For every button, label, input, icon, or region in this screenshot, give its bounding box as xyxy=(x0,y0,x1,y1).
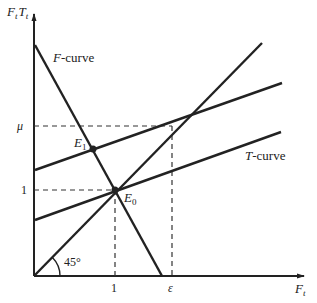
t-curve-line xyxy=(35,132,281,220)
f-curve-line xyxy=(35,45,162,276)
tick-x-one: 1 xyxy=(111,281,117,295)
tick-x-epsilon: ε xyxy=(168,281,173,295)
point-e0 xyxy=(112,187,119,194)
point-e1 xyxy=(90,146,97,153)
t-curve-label: T-curve xyxy=(245,148,286,163)
tick-y-one: 1 xyxy=(21,183,27,197)
angle-arc xyxy=(52,258,60,276)
f-curve-label: F-curve xyxy=(52,50,94,65)
angle-label: 45° xyxy=(64,255,81,269)
x-axis-label: Ft xyxy=(294,281,306,298)
diagram-canvas: FtTt Ft F-curve T-curve E1 E0 45° μ 1 1 … xyxy=(0,0,317,303)
y-axis-label: FtTt xyxy=(6,4,29,21)
e1-label: E1 xyxy=(73,135,86,152)
e0-label: E0 xyxy=(123,190,137,207)
tick-y-mu: μ xyxy=(16,119,23,133)
